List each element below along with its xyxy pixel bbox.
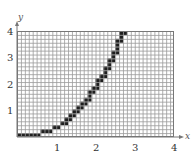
axes: [0, 0, 194, 160]
x-axis-label: x: [185, 131, 190, 141]
y-axis-label: y: [18, 12, 23, 22]
x-tick-2: 2: [93, 143, 99, 153]
y-tick-4: 4: [7, 27, 13, 37]
y-tick-1: 1: [7, 106, 13, 116]
y-tick-3: 3: [7, 53, 13, 63]
x-tick-1: 1: [54, 143, 60, 153]
x-tick-3: 3: [132, 143, 138, 153]
y-tick-2: 2: [7, 80, 13, 90]
x-tick-4: 4: [171, 143, 177, 153]
